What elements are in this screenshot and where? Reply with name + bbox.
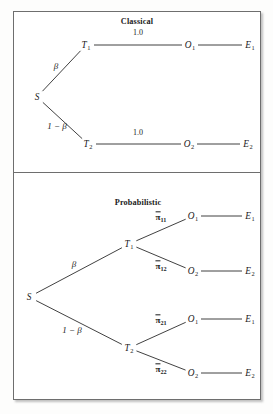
edge-label-probabilistic-beta-lower: 1 − β	[62, 325, 82, 335]
tree-edge	[36, 301, 122, 345]
node-label-classical-o2: O2	[184, 139, 194, 150]
node-label-probabilistic-s: S	[27, 292, 32, 302]
edge-label-classical-beta-lower: 1 − β	[47, 121, 67, 131]
node-label-probabilistic-t2: T2	[125, 343, 134, 354]
panel-title-classical: Classical	[121, 17, 153, 26]
edge-label-classical-beta-upper: β	[54, 61, 58, 71]
node-label-probabilistic-o21: O1	[188, 314, 198, 325]
decision-tree-figure: ClassicalST1T2O1O2E1E2β1 − β1.01.0Probab…	[0, 0, 273, 414]
node-label-classical-s: S	[35, 92, 40, 102]
node-label-classical-o1: O1	[185, 40, 195, 51]
node-label-probabilistic-o11: O1	[188, 211, 198, 222]
node-label-classical-t2: T2	[84, 139, 93, 150]
tree-edges-layer	[0, 0, 273, 414]
panel-title-probabilistic: Probabilistic	[115, 198, 161, 207]
edge-label-probabilistic-pi21: π21	[155, 314, 166, 325]
node-label-classical-t1: T1	[82, 40, 91, 51]
node-label-probabilistic-o22: O2	[188, 368, 198, 379]
edge-label-classical-prob-lower: 1.0	[133, 128, 143, 137]
node-label-probabilistic-e21: E1	[245, 314, 254, 325]
node-label-probabilistic-e22: E2	[245, 368, 254, 379]
edge-label-probabilistic-pi12: π12	[155, 260, 166, 271]
tree-edge	[36, 248, 122, 294]
tree-edge	[42, 51, 80, 91]
node-label-classical-e2: E2	[243, 139, 252, 150]
edge-label-probabilistic-pi11: π11	[156, 211, 167, 222]
edge-label-classical-prob-upper: 1.0	[133, 28, 143, 37]
node-label-classical-e1: E1	[245, 40, 254, 51]
node-label-probabilistic-t1: T1	[125, 239, 134, 250]
edge-label-probabilistic-pi22: π22	[155, 363, 166, 374]
node-label-probabilistic-e12: E2	[245, 266, 254, 277]
node-label-probabilistic-o12: O2	[188, 266, 198, 277]
node-label-probabilistic-e11: E1	[245, 211, 254, 222]
edge-label-probabilistic-beta-upper: β	[72, 259, 76, 269]
